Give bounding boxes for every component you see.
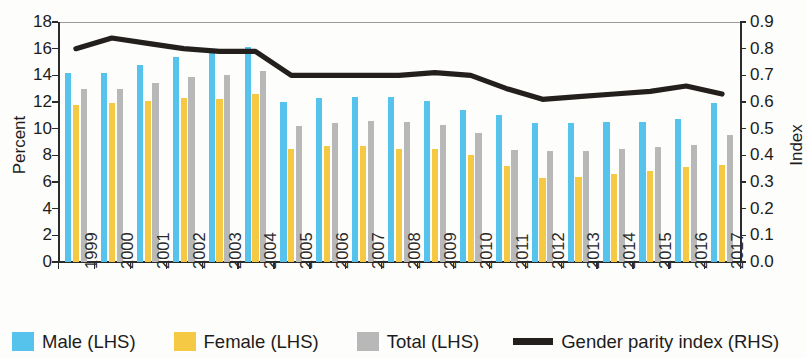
legend-swatch-male [12, 332, 34, 351]
right-axis-tick [740, 128, 746, 129]
legend-item-gender-parity-index: Gender parity index (RHS) [513, 332, 779, 351]
left-axis-tick-label: 2 [43, 226, 52, 243]
legend-swatch-gender-parity-index [513, 338, 553, 345]
right-axis-line [740, 22, 742, 262]
x-axis-tick-label: 2010 [478, 232, 495, 269]
x-axis-tick-label: 2008 [406, 232, 423, 269]
x-axis-tick-label: 2002 [191, 232, 208, 269]
legend-swatch-female [174, 332, 196, 351]
x-axis-tick-label: 2016 [693, 232, 710, 269]
right-axis-tick [740, 181, 746, 182]
right-axis-tick-label: 0.5 [750, 120, 774, 137]
legend-label-female: Female (LHS) [204, 332, 319, 351]
left-axis-tick-label: 14 [33, 66, 52, 83]
x-axis-tick-label: 2006 [334, 232, 351, 269]
x-axis-tick-label: 2005 [298, 232, 315, 269]
left-axis-tick-label: 12 [33, 93, 52, 110]
right-axis-tick-label: 0.9 [750, 13, 774, 30]
right-axis-tick [740, 208, 746, 209]
x-axis-tick-label: 2014 [621, 232, 638, 269]
x-axis-tick-label: 2007 [370, 232, 387, 269]
legend-label-gender-parity-index: Gender parity index (RHS) [561, 332, 779, 351]
legend-item-female: Female (LHS) [174, 332, 319, 351]
x-axis-tick-label: 1999 [83, 232, 100, 269]
left-axis-title: Percent [10, 100, 30, 190]
x-axis-tick-label: 2012 [550, 232, 567, 269]
x-axis-tick-label: 2000 [119, 232, 136, 269]
x-axis-tick-label: 2015 [657, 232, 674, 269]
chart-legend: Male (LHS) Female (LHS) Total (LHS) Gend… [6, 326, 801, 356]
left-axis-tick-label: 4 [43, 200, 52, 217]
left-axis-tick-label: 8 [43, 146, 52, 163]
x-axis-tick-labels: 1999200020012002200320042005200620072008… [58, 267, 742, 327]
right-axis-tick-label: 0.3 [750, 173, 774, 190]
right-axis-tick-label: 0.1 [750, 226, 774, 243]
right-axis-tick [740, 48, 746, 49]
right-axis-tick-label: 0.4 [750, 146, 774, 163]
legend-item-total: Total (LHS) [357, 332, 480, 351]
left-axis-tick-label: 10 [33, 120, 52, 137]
left-axis-tick-label: 16 [33, 40, 52, 57]
gender-parity-index-line [58, 22, 740, 262]
left-axis-tick-label: 18 [33, 13, 52, 30]
plot-area [58, 22, 740, 262]
right-axis-tick-label: 0.8 [750, 40, 774, 57]
right-axis-tick [740, 155, 746, 156]
gender-parity-index-polyline [76, 38, 722, 99]
right-axis-tick-label: 0.0 [750, 253, 774, 270]
x-axis-tick-label: 2001 [155, 232, 172, 269]
legend-label-total: Total (LHS) [387, 332, 480, 351]
right-axis-tick [740, 75, 746, 76]
right-axis-tick-label: 0.7 [750, 66, 774, 83]
legend-item-male: Male (LHS) [12, 332, 136, 351]
x-axis-tick-label: 2011 [514, 234, 531, 269]
legend-label-male: Male (LHS) [42, 332, 136, 351]
legend-swatch-total [357, 332, 379, 351]
right-axis-title: Index [787, 100, 807, 190]
right-axis-tick [740, 21, 746, 22]
left-axis-tick-label: 0 [43, 253, 52, 270]
right-axis-tick-label: 0.6 [750, 93, 774, 110]
x-axis-tick-label: 2003 [227, 232, 244, 269]
right-axis-tick [740, 101, 746, 102]
right-axis-tick-label: 0.2 [750, 200, 774, 217]
left-axis-tick-label: 6 [43, 173, 52, 190]
x-axis-tick-label: 2013 [585, 232, 602, 269]
x-axis-tick-label: 2004 [262, 232, 279, 269]
x-axis-tick-label: 2009 [442, 232, 459, 269]
x-axis-tick-label: 2017 [729, 232, 746, 269]
